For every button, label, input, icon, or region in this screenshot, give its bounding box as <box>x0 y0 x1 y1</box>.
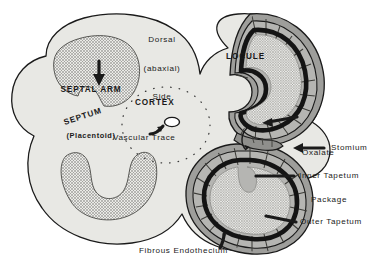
cortex-label: CORTEX <box>135 98 175 108</box>
anther-cross-section-figure: Dorsal (abaxial) Side SEPTAL ARM (Placen… <box>0 0 367 265</box>
fibrous-endothecium-label: Fibrous Endothecium <box>139 246 228 256</box>
locule-label: LOCULE <box>226 52 265 62</box>
vascular-trace-label: Vascular Trace <box>113 133 175 143</box>
oxalate-package-line2: Package <box>311 195 347 205</box>
dorsal-side-line1: Dorsal <box>131 35 193 45</box>
outer-tapetum-label: Outer Tapetum <box>300 217 362 227</box>
septal-arm-label-line1: SEPTAL ARM <box>46 85 136 95</box>
dorsal-side-line2: (abaxial) <box>131 64 193 74</box>
stomium-label: Stomium <box>331 143 367 153</box>
inner-tapetum-label: Inner Tapetum <box>299 171 359 181</box>
